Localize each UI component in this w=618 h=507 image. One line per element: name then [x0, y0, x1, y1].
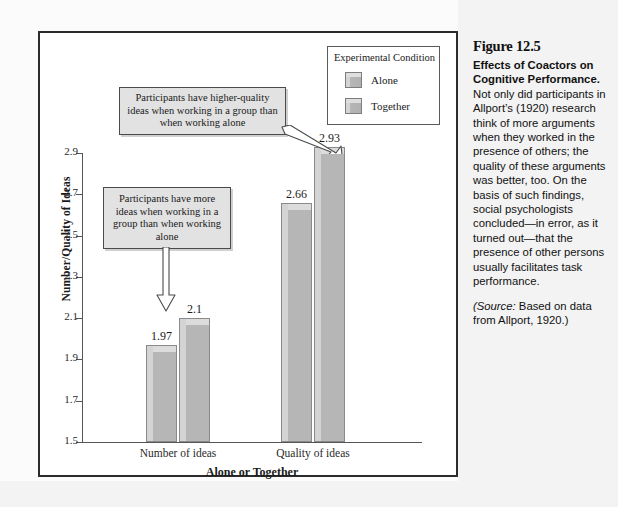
bar-face	[186, 325, 209, 441]
bar-number-of-ideas-together	[179, 318, 210, 442]
bar-quality-of-ideas-together	[314, 147, 345, 442]
legend-label-together: Together	[371, 100, 410, 112]
y-tick-label: 1.7	[64, 393, 78, 405]
figure-caption: Figure 12.5 Effects of Coactors on Cogni…	[473, 38, 615, 327]
x-category-label: Number of ideas	[118, 447, 238, 459]
y-tick-label: 2.7	[64, 186, 78, 198]
bar-value-label: 1.97	[138, 329, 185, 344]
y-tick-label: 2.9	[64, 145, 78, 157]
x-axis-title: Alone or Together	[82, 465, 422, 480]
y-tick-label: 1.9	[64, 351, 78, 363]
callout-lower: Participants have more ideas when workin…	[103, 187, 231, 249]
legend-item-alone: Alone	[345, 72, 398, 88]
legend: Experimental Condition Alone Together	[327, 46, 440, 125]
bar-face	[153, 352, 176, 441]
y-tick-label: 2.3	[64, 269, 78, 281]
bar-number-of-ideas-alone	[146, 345, 177, 442]
y-tick-label: 2.1	[64, 310, 78, 322]
bar-quality-of-ideas-alone	[281, 203, 312, 442]
bar-value-label: 2.1	[171, 302, 218, 317]
figure-number: Figure 12.5	[473, 38, 615, 55]
figure-source-prefix: (Source:	[473, 300, 516, 312]
bar-face	[321, 154, 344, 441]
callout-lower-text: Participants have more ideas when workin…	[109, 193, 225, 243]
x-category-label: Quality of ideas	[253, 447, 373, 459]
figure-caption-heading: Effects of Coactors on Cognitive Perform…	[473, 59, 600, 85]
figure-caption-text: Not only did participants in Allport’s (…	[473, 88, 606, 287]
legend-title: Experimental Condition	[328, 52, 441, 63]
page-margin-bottom	[0, 481, 618, 507]
bar-value-label: 2.93	[306, 131, 353, 146]
bar-value-label: 2.66	[273, 187, 320, 202]
figure-source: (Source: Based on data from Allport, 192…	[473, 299, 615, 328]
chart-plot-area: Number/Quality of Ideas 1.51.71.92.12.32…	[40, 33, 460, 479]
legend-item-together: Together	[345, 98, 410, 114]
y-axis-line	[82, 153, 83, 443]
legend-label-alone: Alone	[371, 74, 398, 86]
callout-upper: Participants have higher-quality ideas w…	[119, 87, 286, 135]
figure-caption-body: Effects of Coactors on Cognitive Perform…	[473, 58, 615, 289]
bar-face	[288, 210, 311, 441]
y-tick-label: 1.5	[64, 434, 78, 446]
legend-swatch-together	[345, 98, 362, 114]
legend-swatch-alone	[345, 72, 362, 88]
x-axis-line	[82, 442, 422, 443]
y-tick-label: 2.5	[64, 228, 78, 240]
figure-frame: Number/Quality of Ideas 1.51.71.92.12.32…	[38, 31, 458, 477]
